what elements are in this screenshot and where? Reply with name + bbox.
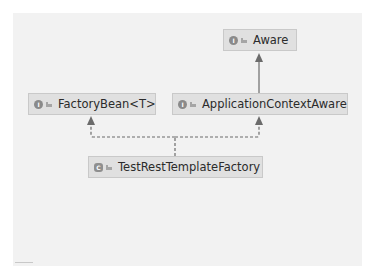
edge-extends-aware [255,53,263,93]
visibility-icon [46,102,52,107]
visibility-icon [241,38,247,43]
node-applicationcontextaware[interactable]: I ApplicationContextAware [172,93,348,115]
node-label: FactoryBean<T> [58,97,156,111]
class-icon: C [94,163,103,172]
node-label: TestRestTemplateFactory [118,160,260,174]
arrowhead-appctxaware [255,116,263,125]
visibility-icon [106,165,112,170]
node-factorybean[interactable]: I FactoryBean<T> [28,93,156,115]
arrowhead-factorybean [87,116,95,125]
node-testresttemplatefactory[interactable]: C TestRestTemplateFactory [88,156,263,178]
diagram-edges [0,0,371,275]
node-label: ApplicationContextAware [202,97,347,111]
node-aware[interactable]: I Aware [223,29,297,51]
visibility-icon [190,102,196,107]
node-label: Aware [253,33,288,47]
edge-implements [87,116,263,156]
interface-icon: I [229,36,238,45]
interface-icon: I [34,100,43,109]
interface-icon: I [178,100,187,109]
